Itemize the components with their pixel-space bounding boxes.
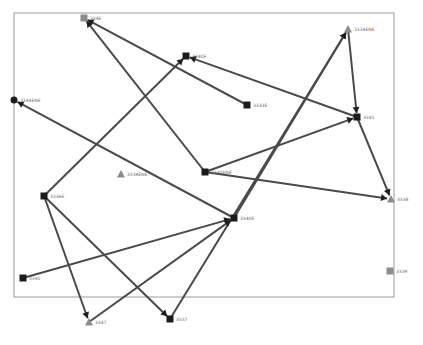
graph-node[interactable]: 3333E — [244, 102, 268, 109]
node-label: 3340E — [240, 216, 254, 221]
square-node-icon — [387, 268, 394, 275]
graph-node[interactable]: 3338ENE — [117, 170, 148, 178]
node-label: 3333E — [253, 103, 267, 108]
graph-node[interactable]: 3345 — [20, 275, 41, 282]
graph-node[interactable]: 3347 — [85, 318, 107, 326]
square-node-icon — [167, 316, 174, 323]
square-node-icon — [20, 275, 27, 282]
node-label: 3344ENE — [20, 98, 41, 103]
square-node-icon — [202, 169, 209, 176]
graph-node[interactable]: 3340E — [231, 215, 255, 222]
square-node-icon — [81, 15, 88, 22]
node-label: 3341 — [363, 115, 375, 120]
node-label: 3334ENE — [354, 27, 375, 32]
node-label: 3337 — [176, 317, 188, 322]
node-label: 3340ENE — [211, 170, 232, 175]
circle-node-icon — [11, 97, 18, 104]
node-label: 3345 — [29, 276, 41, 281]
square-node-icon — [244, 102, 251, 109]
square-node-icon — [41, 193, 48, 200]
graph-node[interactable]: 334E — [81, 15, 102, 22]
node-label: 3340E — [192, 54, 206, 59]
graph-node[interactable]: 3344ENE — [11, 97, 41, 104]
square-node-icon — [183, 53, 190, 60]
node-label: 3339 — [396, 269, 408, 274]
node-label: 3338 — [397, 197, 409, 202]
graph-node[interactable]: 3340ENE — [202, 169, 232, 176]
node-label: 3338ENE — [127, 172, 148, 177]
network-diagram: 334E3340E3344ENE3334ENE3333E33413338ENE3… — [0, 0, 423, 345]
graph-node[interactable]: 3336E — [41, 193, 65, 200]
square-node-icon — [231, 215, 238, 222]
square-node-icon — [354, 114, 361, 121]
graph-node[interactable]: 3334ENE — [344, 25, 375, 33]
node-label: 3336E — [50, 194, 64, 199]
graph-node[interactable]: 3340E — [183, 53, 207, 60]
graph-node[interactable]: 3337 — [167, 316, 188, 323]
node-label: 334E — [90, 16, 102, 21]
graph-node[interactable]: 3341 — [354, 114, 375, 121]
graph-node[interactable]: 3339 — [387, 268, 408, 275]
node-label: 3347 — [95, 320, 107, 325]
